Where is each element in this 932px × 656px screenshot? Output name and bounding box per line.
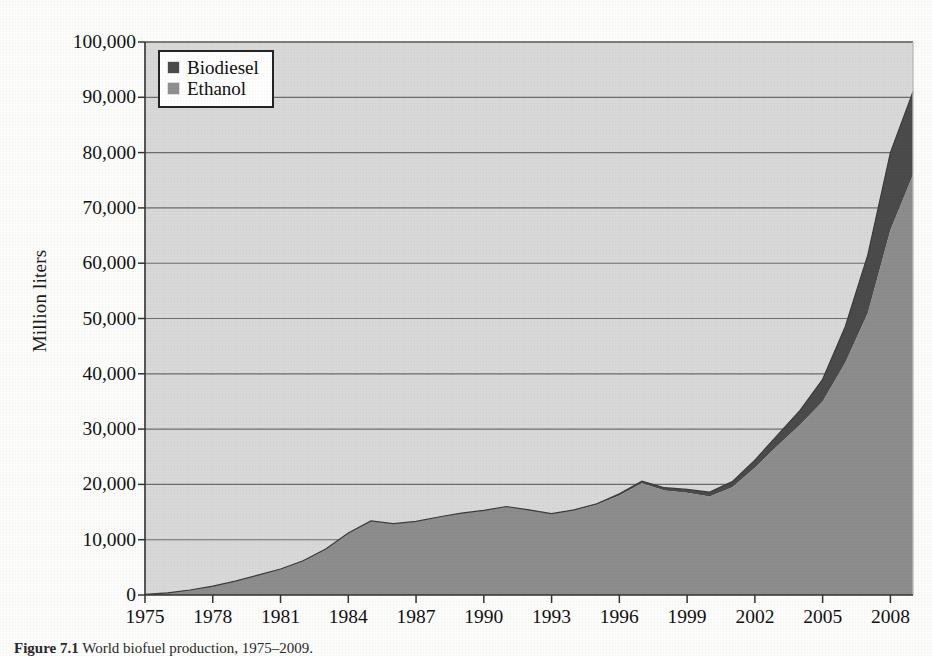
legend-swatch-ethanol (168, 83, 179, 94)
x-tick-label: 1981 (261, 606, 300, 628)
x-tick-label: 1978 (193, 606, 232, 628)
legend-label-ethanol: Ethanol (187, 79, 246, 99)
x-tick-label: 1996 (600, 606, 639, 628)
x-tick-label: 2002 (735, 606, 774, 628)
legend-label-biodiesel: Biodiesel (187, 58, 259, 78)
figure-biofuel-production: Million liters 010,00020,00030,00040,000… (0, 0, 932, 656)
chart-legend: Biodiesel Ethanol (158, 50, 274, 108)
caption-prefix: Figure (14, 640, 56, 656)
caption-text: World biofuel production, 1975–2009. (82, 640, 313, 656)
x-tick-label: 1975 (126, 606, 165, 628)
legend-swatch-biodiesel (168, 62, 179, 73)
x-tick-label: 1990 (464, 606, 503, 628)
x-tick-label: 1999 (668, 606, 707, 628)
legend-item-ethanol: Ethanol (168, 79, 259, 99)
figure-caption: Figure 7.1 World biofuel production, 197… (14, 640, 313, 656)
caption-number: 7.1 (60, 640, 79, 656)
x-tick-label: 1993 (532, 606, 571, 628)
legend-item-biodiesel: Biodiesel (168, 58, 259, 78)
x-axis-tick-labels: 1975197819811984198719901993199619992002… (0, 0, 932, 656)
x-tick-label: 2008 (871, 606, 910, 628)
x-tick-label: 1984 (329, 606, 368, 628)
x-tick-label: 2005 (803, 606, 842, 628)
x-tick-label: 1987 (397, 606, 436, 628)
